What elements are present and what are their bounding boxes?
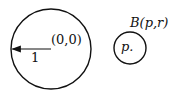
radius-label: 1 bbox=[31, 50, 39, 65]
point-label: p. bbox=[121, 39, 133, 54]
diagram-canvas: (0,0) 1 p. B(p,r) bbox=[0, 0, 178, 92]
ball-label: B(p,r) bbox=[129, 15, 168, 30]
origin-label: (0,0) bbox=[51, 32, 82, 47]
